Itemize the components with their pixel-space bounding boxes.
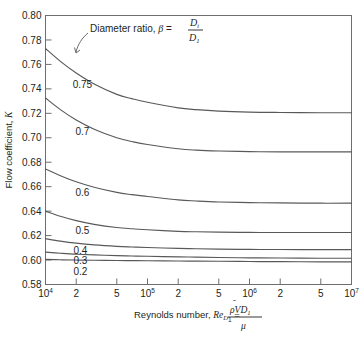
curve-beta-0-5 [46,211,352,232]
curve-label-beta-0-3: 0.3 [73,255,87,266]
curve-label-beta-0-5: 0.5 [75,225,89,236]
x-tick-label: 2 [175,288,181,299]
curve-label-beta-0-7: 0.7 [75,126,89,137]
y-tick-label: 0.70 [22,132,42,143]
y-tick-label: 0.68 [22,157,42,168]
x-tick-label: 5 [216,288,222,299]
x-tick-label: 2 [277,288,283,299]
y-tick-label: 0.80 [22,10,42,21]
annotation-leader-line [76,33,88,52]
y-axis-tick-marks [46,16,52,285]
y-tick-label: 0.72 [22,108,42,119]
velocity-overbar: ̄ [233,300,237,301]
curve-label-beta-0-2: 0.2 [73,266,87,277]
curve-label-beta-0-6: 0.6 [75,187,89,198]
curve-beta-0-4 [46,239,352,250]
x-tick-label: 105 [140,287,155,299]
y-tick-label: 0.78 [22,35,42,46]
flow-coefficient-chart: 0.800.780.760.740.720.700.680.660.640.62… [0,0,362,340]
x-axis-title-text: Reynolds number, ReD1 = [134,309,240,323]
x-axis-fraction-denominator: μ [240,321,246,331]
curve-labels: 0.750.70.60.50.40.30.2 [73,79,93,277]
annotation-diameter-ratio: Diameter ratio, β = Dt D1 [90,17,203,44]
x-tick-label: 107 [344,287,359,299]
y-tick-label: 0.76 [22,59,42,70]
curve-beta-0-6 [46,169,352,203]
annotation-fraction-denominator: D1 [188,32,199,44]
curve-beta-0-3 [46,252,352,258]
y-tick-label: 0.74 [22,83,42,94]
y-axis-title: Flow coefficient, K [3,111,14,189]
y-tick-label: 0.64 [22,206,42,217]
curve-label-beta-0-75: 0.75 [73,79,93,90]
y-tick-label: 0.60 [22,255,42,266]
x-tick-label: 2 [73,288,79,299]
curve-beta-0-2 [46,259,352,261]
y-tick-label: 0.62 [22,230,42,241]
chart-canvas: 0.800.780.760.740.720.700.680.660.640.62… [0,0,362,340]
annotation-label: Diameter ratio, β = [90,23,172,34]
annotation-fraction-numerator: Dt [189,17,199,29]
x-axis-title: Reynolds number, ReD1 = ρVD1 ̄ μ [134,300,262,332]
x-axis-tick-marks [76,279,321,285]
x-tick-label: 106 [242,287,257,299]
x-axis-fraction-numerator: ρVD1 [229,305,251,316]
x-axis-tick-labels: 104251052510625107 [38,287,359,299]
x-tick-label: 5 [114,288,120,299]
x-tick-label: 104 [38,287,53,299]
x-tick-label: 5 [318,288,324,299]
curve-beta-0-7 [46,98,352,152]
y-tick-label: 0.66 [22,181,42,192]
y-axis-tick-labels: 0.800.780.760.740.720.700.680.660.640.62… [22,10,42,290]
annotation-fraction: Dt D1 [188,17,203,44]
